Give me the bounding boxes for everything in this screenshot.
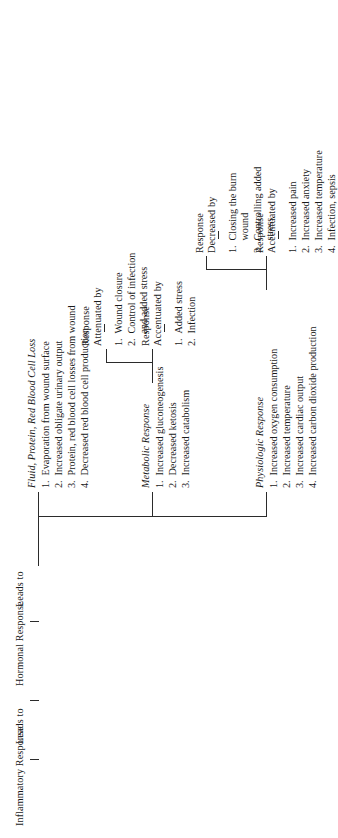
physiologic-decreased-item-list: 1. Closing the burn wound 2. Controlling… (227, 167, 277, 253)
list-item-label: Infection (186, 297, 197, 334)
physiologic-accentuated-connector-line (266, 256, 267, 270)
branch-title-physiologic: Physiologic Response (254, 326, 266, 488)
physiologic-decreased-connector-line (206, 256, 207, 270)
list-item-label: Decreased ketosis (167, 402, 178, 475)
list-item: 1. Closing the burn wound (227, 167, 251, 253)
sub-head-line-2: Decreased by (206, 167, 218, 253)
list-item: 1. Increased pain (287, 150, 299, 253)
list-item-number: 3. (294, 480, 306, 488)
list-item: 1. Increased oxygen consumption (268, 326, 280, 488)
list-item-label: Decreased red blood cell production (79, 328, 90, 476)
list-item-number: 2. (167, 480, 179, 488)
branch-physiologic-response: Physiologic Response 1. Increased oxygen… (254, 326, 319, 488)
list-item-number: 4. (79, 480, 91, 488)
metabolic-modifier-stem-line (152, 363, 153, 383)
list-item-number: 2. (300, 245, 312, 253)
list-item: 3. Increased temperature (313, 150, 325, 253)
list-item-number: 2. (281, 480, 293, 488)
stem-connector-tick-1 (30, 759, 39, 760)
list-item-number: 2. (186, 338, 198, 346)
list-item: 3. Increased cardiac output (294, 326, 306, 488)
list-item-label: Increased obligate urinary output (53, 341, 64, 476)
list-item-number: 1. (173, 338, 185, 346)
list-item-number: 1. (113, 338, 125, 346)
list-item: 4. Increased carbon dioxide production (307, 326, 319, 488)
physiologic-accentuated-item-list: 1. Increased pain 2. Increased anxiety 3… (287, 150, 338, 253)
list-item: 2. Decreased ketosis (167, 367, 179, 488)
branch-metabolic-response: Metabolic Response 1. Increased gluconeo… (140, 367, 193, 488)
stem-connector-tick-3 (30, 621, 39, 622)
list-item-continuation: and added stress (138, 253, 150, 334)
list-item: 2. Controlling added stress (252, 167, 276, 253)
list-item-number: 2. (126, 338, 138, 346)
list-item-number: 3. (66, 480, 78, 488)
sub-head-underline-tick (104, 324, 105, 332)
metabolic-response-attenuated-by: Response Attenuated by 1. Wound closure … (80, 253, 151, 346)
flowchart-canvas: Inflammatory Response Leads to Hormonal … (0, 0, 338, 838)
physiologic-modifier-split-line (206, 269, 266, 270)
list-item-label: Protein, red blood cell losses from woun… (66, 305, 77, 475)
list-item-number: 1. (287, 245, 299, 253)
branch-fluid-connector-line (38, 492, 39, 517)
list-item-label: Increased oxygen consumption (268, 349, 279, 476)
list-item-number: 1. (154, 480, 166, 488)
list-item-number: 1. (268, 480, 280, 488)
list-item: 2. Increased temperature (281, 326, 293, 488)
list-item-continuation: stress (264, 167, 276, 241)
list-item-label: Increased temperature (313, 150, 324, 240)
stem-leads-to-1: Leads to (14, 708, 26, 744)
list-item-number: 4. (326, 245, 338, 253)
list-item: 2. Increased anxiety (300, 150, 312, 253)
rotated-figure-container: Inflammatory Response Leads to Hormonal … (0, 0, 338, 838)
list-item-label: Increased anxiety (300, 169, 311, 241)
list-item-label: Increased temperature (281, 385, 292, 475)
sub-head-underline-tick (218, 231, 219, 239)
stem-hormonal-response: Hormonal Response (14, 601, 26, 686)
sub-head-line-2: Attenuated by (92, 253, 104, 346)
metabolic-modifier-split-line (106, 362, 152, 363)
stem-leads-to-2: Leads to (14, 571, 26, 607)
list-item-number: 2. (252, 245, 264, 253)
list-item: 1. Increased gluconeogenesis (154, 367, 166, 488)
list-item-number: 3. (313, 245, 325, 253)
list-item-label: Increased gluconeogenesis (154, 367, 165, 476)
physiologic-response-decreased-by: Response Decreased by 1. Closing the bur… (194, 167, 277, 253)
list-item: 1. Wound closure (113, 253, 125, 346)
list-item-continuation: wound (239, 167, 251, 241)
list-item-label: Increased catabolism (180, 390, 191, 476)
branch-metabolic-connector-line (152, 492, 153, 517)
list-item: 2. Control of infection and added stress (126, 253, 150, 346)
list-item-number: 4. (307, 480, 319, 488)
branch-metabolic-item-list: 1. Increased gluconeogenesis 2. Decrease… (154, 367, 192, 488)
list-item-number: 1. (40, 480, 52, 488)
list-item-label: Control of infection (126, 253, 137, 334)
list-item-label: Closing the burn (227, 173, 238, 241)
list-item-label: Increased pain (287, 181, 298, 240)
list-item: 1. Evaporation from wound surface (40, 305, 52, 488)
list-item: 2. Increased obligate urinary output (53, 305, 65, 488)
list-item: 2. Infection (186, 281, 198, 346)
metabolic-accentuated-connector-line (152, 349, 153, 363)
list-item-label: Wound closure (113, 272, 124, 333)
metabolic-attenuated-connector-line (106, 349, 107, 363)
list-item: 1. Added stress (173, 281, 185, 346)
sub-head-line-1: Response (80, 253, 92, 346)
list-item: 3. Protein, red blood cell losses from w… (66, 305, 78, 488)
list-item-label: Increased cardiac output (294, 376, 305, 476)
list-item-label: Controlling added (252, 167, 263, 241)
list-item-label: Increased carbon dioxide production (307, 326, 318, 475)
list-item-label: Infection, sepsis (326, 174, 337, 240)
sub-head-line-1: Response (194, 167, 206, 253)
list-item-number: 3. (180, 480, 192, 488)
branch-physiologic-connector-line (266, 492, 267, 517)
sub-head-line-2: Accentuated by (152, 281, 164, 346)
stem-connector-tick-2 (30, 700, 39, 701)
list-item: 4. Infection, sepsis (326, 150, 338, 253)
branch-title-fluid: Fluid, Protein, Red Blood Cell Loss (26, 305, 38, 488)
list-item: 3. Increased catabolism (180, 367, 192, 488)
branch-title-metabolic: Metabolic Response (140, 367, 152, 488)
metabolic-accentuated-item-list: 1. Added stress 2. Infection (173, 281, 198, 346)
sub-head-underline-tick (164, 324, 165, 332)
list-item-number: 2. (53, 480, 65, 488)
metabolic-attenuated-item-list: 1. Wound closure 2. Control of infection… (113, 253, 150, 346)
